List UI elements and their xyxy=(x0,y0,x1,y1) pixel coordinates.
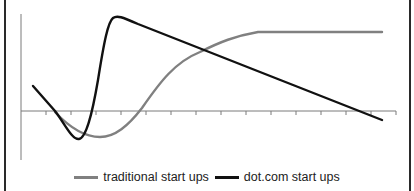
legend-item-dotcom: dot.com start ups xyxy=(215,170,340,184)
legend-swatch-traditional xyxy=(74,176,98,179)
chart-frame: traditional start ups dot.com start ups xyxy=(0,0,414,191)
legend-label-traditional: traditional start ups xyxy=(103,170,209,184)
legend-swatch-dotcom xyxy=(215,176,239,179)
legend-item-traditional: traditional start ups xyxy=(74,170,209,184)
series-dotcom-start-ups xyxy=(33,17,382,139)
legend-label-dotcom: dot.com start ups xyxy=(244,170,340,184)
legend: traditional start ups dot.com start ups xyxy=(0,168,414,186)
x-axis-ticks xyxy=(46,111,396,115)
plot-area xyxy=(0,0,414,191)
